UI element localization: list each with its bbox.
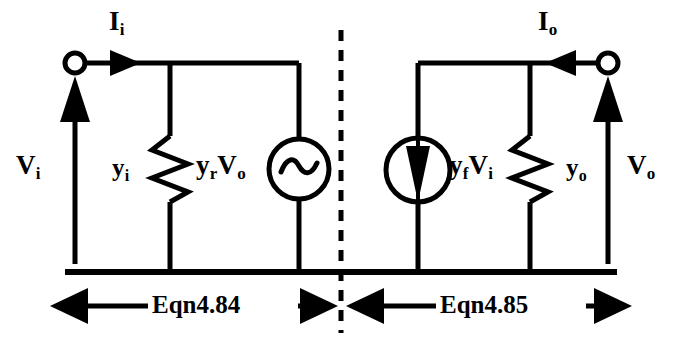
- label-current-in: Ii: [109, 8, 125, 38]
- label-reverse-source-var-main: V: [217, 150, 237, 180]
- annotation-right-span-label: Eqn4.85: [440, 292, 528, 317]
- output-terminal-circle: [598, 53, 618, 73]
- vi-arrow-head: [60, 76, 90, 122]
- label-forward-source-var-main: V: [468, 150, 488, 180]
- ii-current-arrowhead: [110, 50, 141, 76]
- circuit-diagram-figure: Ii Io Vi Vo yi yo yrVo yfVi Eqn4.84 Eqn4…: [0, 0, 682, 350]
- eqn-right-span-arrowhead-right: [594, 288, 632, 324]
- label-voltage-out-main: V: [627, 150, 647, 180]
- label-forward-source: yfVi: [449, 152, 493, 182]
- yi-resistor-zigzag: [152, 136, 188, 202]
- label-reverse-source: yrVo: [196, 152, 246, 182]
- label-voltage-out: Vo: [627, 152, 655, 182]
- label-current-out: Io: [538, 8, 557, 38]
- label-voltage-in-main: V: [16, 150, 36, 180]
- label-forward-source-coef-main: y: [449, 150, 463, 180]
- label-current-in-main: I: [109, 6, 120, 36]
- vo-arrow-head: [593, 76, 623, 122]
- label-admittance-in: yi: [112, 155, 129, 184]
- yo-resistor-zigzag: [512, 136, 548, 202]
- label-forward-source-var-sub: i: [488, 164, 493, 183]
- eqn-left-span-arrowhead-left: [50, 288, 88, 324]
- eqn-left-span-arrowhead-right: [300, 288, 338, 324]
- label-current-in-sub: i: [120, 20, 125, 39]
- label-current-out-sub: o: [549, 20, 558, 39]
- label-voltage-in-sub: i: [36, 164, 41, 183]
- label-current-out-main: I: [538, 6, 549, 36]
- label-admittance-in-sub: i: [125, 167, 130, 184]
- label-admittance-out: yo: [566, 155, 587, 184]
- label-admittance-in-main: y: [112, 154, 125, 181]
- label-voltage-out-sub: o: [647, 164, 656, 183]
- annotation-left-span-label: Eqn4.84: [152, 292, 240, 317]
- eqn-right-span-arrowhead-left: [346, 288, 384, 324]
- label-admittance-out-sub: o: [579, 167, 587, 184]
- io-current-arrowhead: [545, 50, 576, 76]
- input-terminal-circle: [65, 53, 85, 73]
- label-admittance-out-main: y: [566, 154, 579, 181]
- label-voltage-in: Vi: [16, 152, 41, 182]
- label-reverse-source-coef-main: y: [196, 150, 210, 180]
- label-reverse-source-var-sub: o: [237, 164, 246, 183]
